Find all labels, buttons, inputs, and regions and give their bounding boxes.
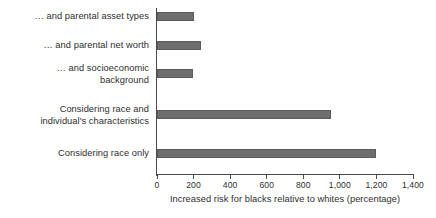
- category-label: … and parental asset types: [0, 11, 149, 23]
- x-axis-tick: [413, 174, 414, 179]
- bar: [157, 12, 194, 21]
- x-axis-title: Increased risk for blacks relative to wh…: [157, 193, 413, 205]
- x-axis-tick: [193, 174, 194, 179]
- plot-area: 02004006008001,0001,2001,400: [157, 0, 413, 176]
- x-axis-tick-label: 1,200: [365, 180, 387, 190]
- x-axis-line: [156, 174, 413, 175]
- x-axis-tick: [339, 174, 340, 179]
- bar: [157, 69, 193, 78]
- x-axis-tick: [230, 174, 231, 179]
- category-label: Considering race only: [0, 148, 149, 160]
- x-axis-tick-label: 1,000: [329, 180, 351, 190]
- x-axis-tick-label: 400: [223, 180, 238, 190]
- bar: [157, 149, 376, 158]
- x-axis-tick-label: 1,400: [402, 180, 424, 190]
- bar-chart: … and parental asset types … and parenta…: [0, 0, 436, 218]
- x-axis-tick: [157, 174, 158, 179]
- x-axis-tick: [376, 174, 377, 179]
- category-label: Considering race and individual's charac…: [0, 104, 149, 127]
- x-axis-tick: [266, 174, 267, 179]
- x-axis-tick-label: 200: [186, 180, 201, 190]
- x-axis-tick: [303, 174, 304, 179]
- bar: [157, 110, 331, 119]
- category-label: … and parental net worth: [0, 40, 149, 52]
- x-axis-tick-label: 0: [155, 180, 160, 190]
- x-axis-tick-label: 600: [259, 180, 274, 190]
- x-axis-tick-label: 800: [296, 180, 311, 190]
- bar: [157, 41, 201, 50]
- category-label: … and socioeconomic background: [0, 63, 149, 86]
